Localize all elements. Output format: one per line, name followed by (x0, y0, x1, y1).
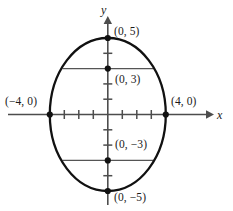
x-axis-arrow-icon (206, 110, 214, 118)
point-bottom-vertex (105, 188, 111, 194)
label-left-vertex: (−4, 0) (5, 96, 37, 108)
point-top-vertex (105, 35, 111, 41)
point-upper-chord (105, 66, 111, 72)
ellipse-figure: y x (0, 5) (0, 3) (−4, 0) (4, 0) (0, −3)… (0, 0, 233, 211)
label-upper-chord: (0, 3) (115, 74, 141, 86)
y-axis-label: y (101, 4, 106, 16)
label-lower-chord: (0, −3) (115, 139, 147, 151)
point-left-vertex (47, 111, 53, 117)
point-lower-chord (105, 157, 111, 163)
point-right-vertex (163, 111, 169, 117)
x-axis-label: x (217, 109, 222, 121)
label-top-vertex: (0, 5) (114, 26, 140, 38)
label-bottom-vertex: (0, −5) (114, 192, 146, 204)
y-axis-arrow-icon (104, 16, 112, 24)
label-right-vertex: (4, 0) (171, 96, 197, 108)
